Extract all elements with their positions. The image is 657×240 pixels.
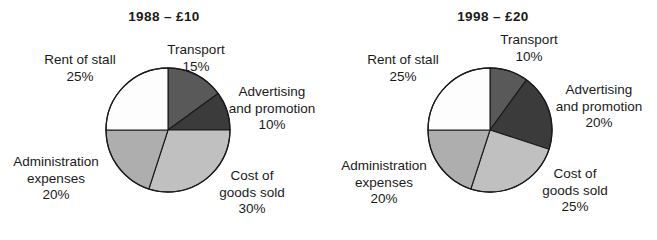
pie-chart-figure: 1988 – £10 Transport 15% Advertising and… [0,0,657,240]
chart-panel-1998: 1998 – £20 Transport 10% Advertising and… [329,0,657,240]
slice-label-transport-text: Transport [167,42,224,57]
slice-label-advertising-pct: 20% [541,115,657,132]
chart-panel-1988: 1988 – £10 Transport 15% Advertising and… [0,0,328,240]
slice-label-advertising-text-2: and promotion [229,101,315,116]
slice-label-cost-of-goods-sold: Cost of goods sold 25% [525,166,625,216]
slice-label-transport-pct: 10% [481,49,577,66]
slice-label-rent-text: Rent of stall [367,52,438,67]
slice-label-cost-text-2: goods sold [219,185,284,200]
slice-label-administration-expenses: Administration expenses 20% [329,158,439,208]
slice-label-transport-pct: 15% [148,59,244,76]
slice-label-admin-text-1: Administration [13,154,99,169]
slice-label-cost-of-goods-sold: Cost of goods sold 30% [202,168,302,218]
slice-label-rent-pct: 25% [28,69,132,86]
slice-label-transport: Transport 10% [481,32,577,65]
slice-label-admin-text-2: expenses [27,171,85,186]
slice-label-admin-text-1: Administration [341,158,427,173]
slice-label-cost-pct: 30% [202,201,302,218]
slice-label-advertising-text-2: and promotion [556,99,642,114]
slice-label-cost-pct: 25% [525,199,625,216]
slice-label-administration-expenses: Administration expenses 20% [2,154,110,204]
slice-label-advertising-text-1: Advertising [239,84,306,99]
slice-label-admin-text-2: expenses [355,175,413,190]
slice-label-advertising-pct: 10% [216,117,328,134]
slice-label-cost-text-2: goods sold [542,183,607,198]
slice-label-admin-pct: 20% [2,187,110,204]
slice-label-advertising-text-1: Advertising [566,82,633,97]
slice-label-advertising: Advertising and promotion 10% [216,84,328,134]
slice-label-rent-text: Rent of stall [44,52,115,67]
slice-label-admin-pct: 20% [329,191,439,208]
slice-label-advertising: Advertising and promotion 20% [541,82,657,132]
slice-label-transport: Transport 15% [148,42,244,75]
slice-label-rent-pct: 25% [351,69,455,86]
slice-label-transport-text: Transport [500,32,557,47]
slice-label-rent-of-stall: Rent of stall 25% [351,52,455,85]
slice-label-cost-text-1: Cost of [231,168,274,183]
slice-label-rent-of-stall: Rent of stall 25% [28,52,132,85]
slice-label-cost-text-1: Cost of [554,166,597,181]
